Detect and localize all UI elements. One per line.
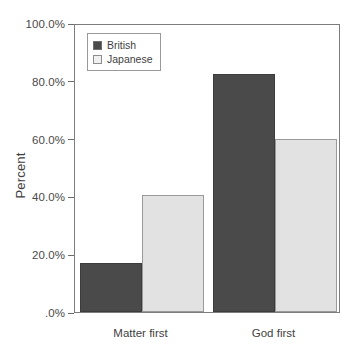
y-axis-tick-label: 40.0% bbox=[32, 191, 65, 203]
y-axis: .0%20.0%40.0%60.0%80.0%100.0% bbox=[28, 24, 74, 320]
plot-area: BritishJapanese bbox=[74, 24, 340, 313]
y-axis-tick: 100.0% bbox=[25, 17, 74, 31]
bar bbox=[80, 263, 142, 312]
y-axis-tick: 60.0% bbox=[32, 133, 74, 147]
y-axis-tick-label: 20.0% bbox=[32, 249, 65, 261]
legend-item-label: Japanese bbox=[107, 53, 153, 65]
x-axis-tick-label: Matter first bbox=[113, 327, 167, 339]
legend-swatch-icon bbox=[93, 55, 102, 64]
y-axis-tick: .0% bbox=[45, 306, 74, 320]
y-axis-tick: 20.0% bbox=[32, 248, 74, 262]
x-axis: Matter firstGod first bbox=[74, 313, 340, 353]
y-axis-tick: 80.0% bbox=[32, 75, 74, 89]
y-axis-tick: 40.0% bbox=[32, 190, 74, 204]
legend-item: Japanese bbox=[93, 52, 153, 66]
y-axis-title-label: Percent bbox=[13, 152, 28, 198]
legend-swatch-icon bbox=[93, 41, 102, 50]
bar bbox=[213, 74, 275, 312]
legend-item-label: British bbox=[107, 39, 136, 51]
bar-chart: Percent .0%20.0%40.0%60.0%80.0%100.0% Br… bbox=[0, 0, 362, 360]
chart-legend: BritishJapanese bbox=[87, 33, 161, 71]
bar bbox=[275, 139, 337, 312]
bar bbox=[142, 195, 204, 312]
y-axis-tick-label: 80.0% bbox=[32, 76, 65, 88]
x-axis-tick-label: God first bbox=[252, 327, 295, 339]
y-axis-tick-label: 100.0% bbox=[25, 18, 65, 30]
legend-item: British bbox=[93, 38, 153, 52]
y-axis-tick-label: 60.0% bbox=[32, 134, 65, 146]
y-axis-tick-label: .0% bbox=[45, 307, 65, 319]
